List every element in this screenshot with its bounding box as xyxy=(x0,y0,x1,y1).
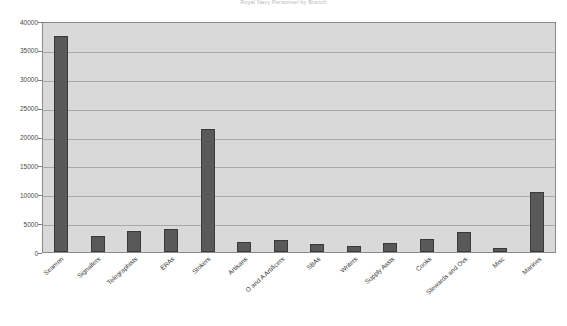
bar-slot xyxy=(445,23,482,252)
chart-title: Royal Navy Personnel by Branch xyxy=(0,0,567,6)
bar-slot xyxy=(299,23,336,252)
y-tick-label: 35000 xyxy=(0,47,38,54)
y-tick-label: 0 xyxy=(0,250,38,257)
bar[interactable] xyxy=(201,129,215,252)
bar-slot xyxy=(116,23,153,252)
bar-slot xyxy=(262,23,299,252)
bars-layer xyxy=(43,23,555,252)
bar-slot xyxy=(482,23,519,252)
y-tick-label: 30000 xyxy=(0,76,38,83)
bar-slot xyxy=(43,23,80,252)
y-tick-label: 40000 xyxy=(0,19,38,26)
bar[interactable] xyxy=(530,192,544,252)
y-tick-label: 25000 xyxy=(0,105,38,112)
y-tick-label: 20000 xyxy=(0,134,38,141)
bar-slot xyxy=(226,23,263,252)
y-tick-mark xyxy=(38,253,42,254)
y-tick-label: 15000 xyxy=(0,163,38,170)
bar[interactable] xyxy=(54,36,68,252)
plot-area xyxy=(42,22,556,253)
bar-slot xyxy=(336,23,373,252)
bar-slot xyxy=(409,23,446,252)
bar-slot xyxy=(519,23,556,252)
x-axis: SeamenSignallersTelegraphistsERAsStokers… xyxy=(42,255,556,325)
y-tick-label: 10000 xyxy=(0,192,38,199)
bar-chart: Royal Navy Personnel by Branch 050001000… xyxy=(0,0,567,326)
bar-slot xyxy=(189,23,226,252)
bar-slot xyxy=(153,23,190,252)
bar-slot xyxy=(80,23,117,252)
y-axis: 0500010000150002000025000300003500040000 xyxy=(0,22,38,253)
y-tick-label: 5000 xyxy=(0,221,38,228)
bar-slot xyxy=(372,23,409,252)
